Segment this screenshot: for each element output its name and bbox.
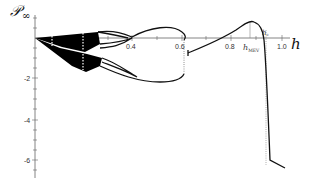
right-branch (188, 21, 285, 168)
x-tick-label: 0.6 (175, 43, 185, 50)
chaotic-band (35, 32, 102, 72)
x-tick-label: 0.8 (225, 43, 235, 50)
lower-branch-outer (100, 66, 184, 82)
y-tick-label: -4 (24, 117, 30, 124)
h-mev-label: hMEV (243, 43, 260, 53)
x-tick-label: 0.4 (126, 43, 136, 50)
y-tick-label: -2 (24, 75, 30, 82)
y-axis-title: 𝒫∞ (10, 2, 30, 21)
upper-branch-loop (98, 32, 128, 38)
x-axis-title: h (291, 35, 301, 53)
y-tick-label: -6 (24, 157, 30, 164)
bifurcation-chart: 0.4 0.6 0.8 1.0 -2 -4 -6 𝒫∞ h hMEV hc (0, 0, 314, 185)
x-tick-label: 1.0 (277, 43, 287, 50)
